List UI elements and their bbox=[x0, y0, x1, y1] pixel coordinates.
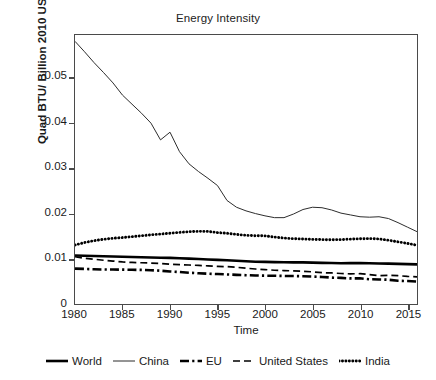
series-line-china bbox=[75, 41, 417, 231]
chart-legend: WorldChinaEUUnited StatesIndia bbox=[0, 352, 436, 370]
legend-label: United States bbox=[259, 355, 328, 367]
legend-swatch-dashdot bbox=[180, 356, 202, 366]
x-tick-mark bbox=[313, 305, 314, 310]
y-tick-mark bbox=[69, 214, 74, 215]
x-tick-mark bbox=[265, 305, 266, 310]
legend-item-india[interactable]: India bbox=[339, 355, 390, 367]
legend-item-eu[interactable]: EU bbox=[180, 355, 222, 367]
chart-title: Energy Intensity bbox=[0, 12, 436, 24]
x-tick-mark bbox=[361, 305, 362, 310]
series-line-united-states bbox=[75, 257, 417, 277]
x-tick-mark bbox=[170, 305, 171, 310]
y-tick-mark bbox=[69, 77, 74, 78]
y-tick-mark bbox=[69, 168, 74, 169]
y-tick-label: 0.02 bbox=[21, 206, 67, 218]
series-line-eu bbox=[75, 269, 417, 282]
plot-area bbox=[74, 34, 418, 305]
legend-swatch-dashed bbox=[233, 356, 255, 366]
x-axis-label: Time bbox=[74, 324, 418, 336]
y-tick-label: 0.05 bbox=[21, 69, 67, 81]
legend-item-world[interactable]: World bbox=[46, 355, 102, 367]
x-tick-mark bbox=[217, 305, 218, 310]
x-tick-mark bbox=[122, 305, 123, 310]
y-tick-label: 0.03 bbox=[21, 160, 67, 172]
series-line-india bbox=[75, 231, 417, 245]
legend-swatch-dotted bbox=[339, 356, 361, 366]
y-tick-label: 0.01 bbox=[21, 251, 67, 263]
legend-swatch-solid-thin bbox=[113, 356, 135, 366]
chart-figure: Energy Intensity Quad BTU/ Billion 2010 … bbox=[0, 0, 436, 380]
legend-swatch-solid-thick bbox=[46, 356, 68, 366]
legend-label: World bbox=[72, 355, 102, 367]
legend-item-united-states[interactable]: United States bbox=[233, 355, 328, 367]
legend-label: India bbox=[365, 355, 390, 367]
x-tick-mark bbox=[408, 305, 409, 310]
y-tick-label: 0.04 bbox=[21, 115, 67, 127]
legend-label: China bbox=[139, 355, 169, 367]
legend-label: EU bbox=[206, 355, 222, 367]
y-axis-label: Quad BTU/ Billion 2010 US$ GDP bbox=[36, 0, 48, 184]
plot-lines bbox=[75, 35, 417, 304]
y-tick-mark bbox=[69, 123, 74, 124]
x-tick-label: 1980 bbox=[51, 308, 97, 320]
series-line-world bbox=[75, 256, 417, 265]
legend-item-china[interactable]: China bbox=[113, 355, 169, 367]
y-tick-mark bbox=[69, 259, 74, 260]
